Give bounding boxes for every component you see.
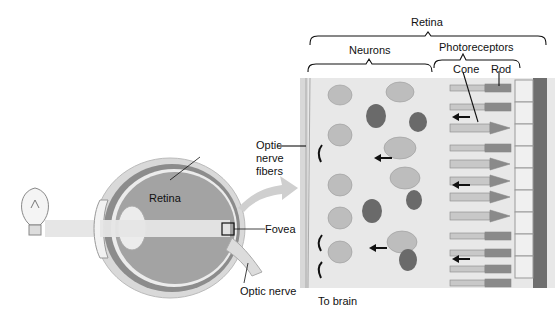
optic-nerve-fibers-label-line2: nerve — [256, 152, 284, 165]
optic-nerve-label: Optic nerve — [240, 285, 296, 298]
fovea-label: Fovea — [265, 223, 296, 236]
optic-nerve-fibers-label-line1: Optic — [256, 139, 282, 152]
zoom-arrow-icon — [238, 176, 298, 212]
eyeball — [94, 157, 265, 298]
rod-label: Rod — [491, 63, 511, 76]
to-brain-label: To brain — [318, 295, 357, 308]
neurons-label: Neurons — [349, 44, 391, 57]
retina-eye-label: Retina — [149, 192, 181, 205]
retina-title-label: Retina — [411, 16, 443, 29]
cone-label: Cone — [453, 63, 479, 76]
optic-nerve-fibers-label-line3: fibers — [256, 165, 283, 178]
photoreceptors-label: Photoreceptors — [439, 41, 514, 54]
light-bulb-icon — [22, 188, 49, 235]
retina-cross-section — [300, 78, 555, 288]
